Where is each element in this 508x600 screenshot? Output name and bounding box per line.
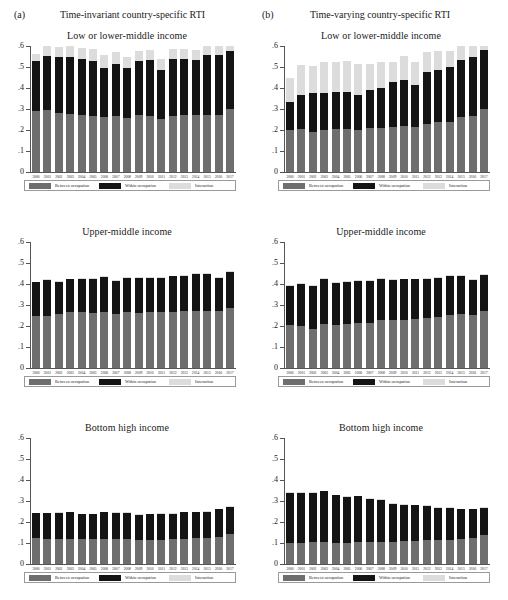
bar[interactable] <box>157 46 165 172</box>
bar[interactable] <box>423 438 431 564</box>
bar[interactable] <box>411 242 419 368</box>
bar[interactable] <box>366 242 374 368</box>
bar[interactable] <box>309 242 317 368</box>
bar[interactable] <box>343 242 351 368</box>
bar[interactable] <box>354 46 362 172</box>
bar[interactable] <box>343 438 351 564</box>
bar[interactable] <box>377 242 385 368</box>
bar[interactable] <box>112 438 120 564</box>
bar[interactable] <box>469 438 477 564</box>
bar[interactable] <box>32 46 40 172</box>
bar[interactable] <box>226 438 234 564</box>
bar[interactable] <box>78 242 86 368</box>
bar[interactable] <box>446 438 454 564</box>
legend-item-between[interactable]: Between occupation <box>279 379 349 385</box>
legend-item-interaction[interactable]: Interaction <box>419 183 489 189</box>
bar[interactable] <box>43 438 51 564</box>
bar[interactable] <box>400 242 408 368</box>
bar[interactable] <box>332 46 340 172</box>
legend-item-between[interactable]: Between occupation <box>25 575 95 581</box>
legend-item-between[interactable]: Between occupation <box>25 183 95 189</box>
bar[interactable] <box>434 438 442 564</box>
bar[interactable] <box>297 242 305 368</box>
bar[interactable] <box>446 46 454 172</box>
bar[interactable] <box>389 242 397 368</box>
bar[interactable] <box>320 242 328 368</box>
bar[interactable] <box>89 242 97 368</box>
bar[interactable] <box>400 438 408 564</box>
legend-item-between[interactable]: Between occupation <box>25 379 95 385</box>
bar[interactable] <box>78 46 86 172</box>
bar[interactable] <box>123 46 131 172</box>
bar[interactable] <box>146 46 154 172</box>
bar[interactable] <box>226 242 234 368</box>
bar[interactable] <box>203 242 211 368</box>
bar[interactable] <box>100 46 108 172</box>
legend-item-within[interactable]: Within occupation <box>349 183 419 189</box>
legend-item-interaction[interactable]: Interaction <box>419 379 489 385</box>
bar[interactable] <box>180 242 188 368</box>
bar[interactable] <box>55 242 63 368</box>
bar[interactable] <box>169 46 177 172</box>
bar[interactable] <box>286 46 294 172</box>
bar[interactable] <box>309 438 317 564</box>
bar[interactable] <box>480 242 488 368</box>
bar[interactable] <box>423 46 431 172</box>
bar[interactable] <box>377 46 385 172</box>
bar[interactable] <box>215 242 223 368</box>
bar[interactable] <box>320 438 328 564</box>
bar[interactable] <box>112 46 120 172</box>
bar[interactable] <box>192 46 200 172</box>
legend-item-interaction[interactable]: Interaction <box>165 575 235 581</box>
bar[interactable] <box>192 242 200 368</box>
bar[interactable] <box>297 46 305 172</box>
bar[interactable] <box>446 242 454 368</box>
legend-item-within[interactable]: Within occupation <box>349 575 419 581</box>
bar[interactable] <box>203 438 211 564</box>
bar[interactable] <box>389 438 397 564</box>
bar[interactable] <box>215 46 223 172</box>
bar[interactable] <box>354 438 362 564</box>
bar[interactable] <box>78 438 86 564</box>
bar[interactable] <box>215 438 223 564</box>
bar[interactable] <box>100 438 108 564</box>
legend-item-within[interactable]: Within occupation <box>95 183 165 189</box>
bar[interactable] <box>469 242 477 368</box>
bar[interactable] <box>157 438 165 564</box>
bar[interactable] <box>135 438 143 564</box>
bar[interactable] <box>366 46 374 172</box>
legend-item-within[interactable]: Within occupation <box>95 379 165 385</box>
bar[interactable] <box>123 242 131 368</box>
bar[interactable] <box>354 242 362 368</box>
bar[interactable] <box>309 46 317 172</box>
bar[interactable] <box>146 438 154 564</box>
bar[interactable] <box>389 46 397 172</box>
bar[interactable] <box>146 242 154 368</box>
bar[interactable] <box>457 242 465 368</box>
bar[interactable] <box>43 46 51 172</box>
bar[interactable] <box>180 46 188 172</box>
bar[interactable] <box>332 242 340 368</box>
legend-item-interaction[interactable]: Interaction <box>419 575 489 581</box>
bar[interactable] <box>112 242 120 368</box>
bar[interactable] <box>43 242 51 368</box>
bar[interactable] <box>297 438 305 564</box>
bar[interactable] <box>123 438 131 564</box>
bar[interactable] <box>135 242 143 368</box>
bar[interactable] <box>480 46 488 172</box>
bar[interactable] <box>226 46 234 172</box>
legend-item-interaction[interactable]: Interaction <box>165 183 235 189</box>
legend-item-between[interactable]: Between occupation <box>279 575 349 581</box>
bar[interactable] <box>55 438 63 564</box>
bar[interactable] <box>366 438 374 564</box>
bar[interactable] <box>400 46 408 172</box>
legend-item-within[interactable]: Within occupation <box>349 379 419 385</box>
bar[interactable] <box>332 438 340 564</box>
bar[interactable] <box>66 438 74 564</box>
bar[interactable] <box>411 438 419 564</box>
bar[interactable] <box>423 242 431 368</box>
bar[interactable] <box>66 46 74 172</box>
bar[interactable] <box>192 438 200 564</box>
bar[interactable] <box>203 46 211 172</box>
bar[interactable] <box>480 438 488 564</box>
